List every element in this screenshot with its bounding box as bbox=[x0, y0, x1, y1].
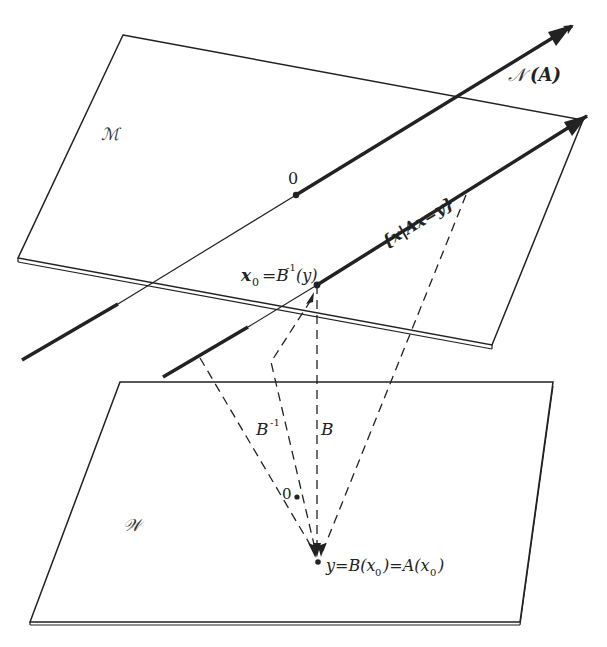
plane-m-label: ℳ bbox=[101, 124, 122, 144]
svg-text:x: x bbox=[240, 265, 252, 285]
svg-text:-1: -1 bbox=[270, 417, 280, 428]
svg-text:0: 0 bbox=[375, 567, 381, 578]
origin-upper-point bbox=[293, 192, 299, 198]
svg-text:(y): (y) bbox=[296, 266, 318, 285]
svg-text:𝒩: 𝒩 bbox=[508, 64, 531, 85]
svg-text:)=A(x: )=A(x bbox=[382, 556, 429, 575]
y-point bbox=[315, 559, 321, 565]
svg-text:0: 0 bbox=[252, 276, 259, 289]
null-space-label: 𝒩 (A) bbox=[508, 64, 561, 85]
y-label: y=B(x 0 )=A(x 0 ) bbox=[325, 556, 444, 578]
b-forward-label: B bbox=[320, 419, 334, 439]
svg-text:-1: -1 bbox=[286, 262, 296, 273]
plane-w bbox=[30, 382, 553, 625]
svg-text:=B: =B bbox=[262, 265, 289, 285]
svg-text:(A): (A) bbox=[530, 64, 561, 85]
svg-text:B: B bbox=[255, 419, 269, 439]
diagram-canvas: ℳ 𝒲 𝒩 (A) {x|Ax=y} 0 x 0 =B -1 (y) 0 y=B… bbox=[0, 0, 607, 647]
null-space-arrowhead-icon bbox=[548, 25, 572, 46]
origin-upper-label: 0 bbox=[288, 169, 298, 188]
origin-lower-point bbox=[294, 494, 299, 499]
svg-text:): ) bbox=[437, 556, 444, 575]
svg-text:y=B(x: y=B(x bbox=[325, 556, 375, 575]
origin-lower-label: 0 bbox=[282, 485, 292, 503]
svg-text:0: 0 bbox=[430, 567, 436, 578]
